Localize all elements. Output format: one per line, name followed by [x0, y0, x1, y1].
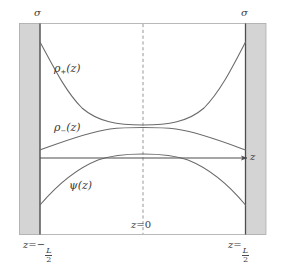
rho-plus-label: ρ+(z) — [54, 63, 81, 76]
rho-minus-argument: (z) — [66, 121, 80, 134]
z-left-equals: = — [28, 239, 36, 250]
z-axis-label: z — [250, 152, 255, 162]
sigma-label-left: σ — [34, 8, 41, 18]
psi-label: ψ(z) — [69, 180, 92, 191]
z-right-equals: = — [233, 239, 241, 250]
z-left-fraction: L2 — [45, 247, 52, 265]
z-right-wall-label: z=L2 — [228, 240, 249, 264]
z-right-fraction: L2 — [242, 247, 249, 265]
psi-argument: (z) — [78, 179, 92, 192]
z-zero-rhs: 0 — [145, 219, 151, 230]
z-zero-equals: = — [136, 219, 144, 230]
z-zero-label: z=0 — [131, 220, 151, 230]
right-wall-band — [246, 24, 267, 235]
z-left-sign: − — [37, 239, 45, 250]
z-left-wall-label: z=−L2 — [23, 240, 53, 264]
z-left-denominator: 2 — [46, 256, 53, 264]
rho-minus-label: ρ−(z) — [54, 122, 81, 135]
rho-plus-argument: (z) — [66, 62, 80, 75]
left-wall-band — [20, 24, 41, 235]
psi-symbol: ψ — [69, 179, 78, 192]
sigma-label-right: σ — [241, 8, 248, 18]
z-right-denominator: 2 — [242, 256, 249, 264]
figure-root: σ σ ρ+(z) ρ−(z) ψ(z) z z=0 z=−L2 z=L2 — [0, 0, 285, 267]
